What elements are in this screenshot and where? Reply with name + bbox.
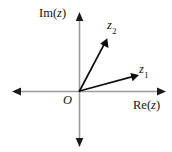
imaginary-axis-label: Im(z) (39, 7, 66, 20)
vector-z1-label-subscript: 1 (144, 70, 148, 80)
imaginary-axis-label-suffix: ) (62, 6, 66, 20)
real-axis-label: Re(z) (133, 99, 160, 112)
imaginary-axis-down-arrowhead (76, 138, 84, 147)
origin-label: O (63, 94, 72, 107)
real-axis-right-arrowhead (157, 88, 166, 96)
imaginary-axis-up-arrowhead (76, 12, 84, 21)
real-axis-left-arrowhead (12, 88, 21, 96)
vector-z1-line (80, 76, 134, 91)
vector-z2-arrowhead (100, 38, 108, 48)
real-axis-label-suffix: ) (156, 98, 160, 112)
vector-z2-label: z2 (107, 19, 116, 34)
vector-z1-label: z1 (139, 63, 148, 78)
vector-z2-group (80, 38, 109, 91)
imaginary-axis-label-prefix: Im( (39, 6, 57, 20)
vector-z2-line (80, 44, 105, 91)
vector-z1-arrowhead (130, 73, 139, 81)
real-axis-label-prefix: Re( (133, 98, 151, 112)
vector-z2-label-subscript: 2 (112, 26, 116, 36)
imaginary-axis-group (76, 12, 84, 147)
argand-diagram-figure: Im(z) Re(z) O z2 z1 (0, 0, 172, 152)
